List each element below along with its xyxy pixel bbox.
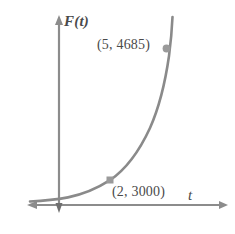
data-point-marker-lower: [107, 177, 114, 184]
data-point-label-upper: (5, 4685): [97, 38, 150, 52]
y-axis-origin-tip-icon: [56, 203, 63, 213]
y-axis-top-arrow-icon: [55, 15, 63, 25]
x-axis-label: t: [188, 188, 192, 203]
data-point-marker-upper: [163, 45, 171, 53]
data-point-label-lower: (2, 3000): [112, 185, 165, 199]
y-axis-label: F(t): [64, 14, 89, 29]
x-axis-right-arrow-icon: [219, 201, 228, 209]
exponential-function-graph: F(t) t (5, 4685) (2, 3000): [0, 0, 235, 234]
